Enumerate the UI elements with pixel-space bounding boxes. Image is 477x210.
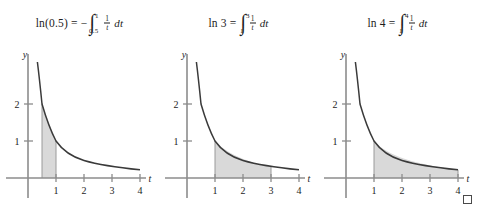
integral-lower-limit: 1 [399,27,403,35]
integrand-fraction: 1 t [409,14,415,31]
formula-equals: = [230,17,237,29]
y-axis-label: y [181,49,187,60]
end-of-proof-square-icon [463,195,472,204]
x-tick-label-2: 2 [400,185,405,196]
differential: dt [419,17,428,29]
y-tick-label-1: 1 [15,136,20,147]
integral-lower-limit: 0.5 [89,27,98,35]
panel-3-plot: y t 1 2 3 4 1 2 [318,46,477,206]
panel-3-svg: y t 1 2 3 4 1 2 [318,46,477,206]
y-tick-label-2: 2 [174,99,179,110]
x-tick-label-4: 4 [456,185,461,196]
fraction-denominator: t [410,23,414,31]
x-tick-label-3: 3 [269,185,274,196]
fraction-denominator: t [105,23,109,31]
panel-ln-4: ln 4 = ∫ 4 1 1 t dt [318,0,477,210]
integral-lower-limit: 1 [240,27,244,35]
x-tick-label-2: 2 [82,185,87,196]
x-axis-label: t [467,173,470,184]
x-tick-label-1: 1 [54,185,59,196]
formula-ln-3: ln 3 = ∫ 3 1 1 t dt [208,12,268,35]
formula-negative-sign: − [81,17,88,29]
panel-1-svg: y t 1 2 3 4 1 2 [0,46,159,206]
panel-1-caption: ln(0.5) = − ∫ 1 0.5 1 t dt [0,0,159,46]
fraction-denominator: t [251,23,255,31]
differential: dt [114,17,123,29]
x-tick-label-4: 4 [297,185,302,196]
y-tick-label-2: 2 [15,99,20,110]
formula-lhs: ln(0.5) [36,17,68,29]
formula-lhs: ln 4 [367,17,385,29]
panel-ln-3: ln 3 = ∫ 3 1 1 t dt [159,0,318,210]
curve-one-over-t [355,62,458,170]
integral-upper-limit: 1 [95,12,104,20]
x-tick-label-4: 4 [138,185,143,196]
integral-block: ∫ 4 1 [399,12,405,35]
x-axis-label: t [308,173,311,184]
y-axis-label: y [22,49,28,60]
integrand-fraction: 1 t [250,14,256,31]
panel-2-svg: y t 1 2 3 4 1 2 [159,46,318,206]
formula-ln-4: ln 4 = ∫ 4 1 1 t dt [367,12,427,35]
shaded-region [215,141,271,178]
formula-equals: = [389,17,396,29]
formula-lhs: ln 3 [208,17,226,29]
fraction-numerator: 1 [409,14,415,22]
x-tick-label-3: 3 [110,185,115,196]
panel-2-caption: ln 3 = ∫ 3 1 1 t dt [159,0,318,46]
y-tick-label-1: 1 [174,136,179,147]
shaded-region [374,141,458,178]
y-tick-label-1: 1 [333,136,338,147]
integrand-fraction: 1 t [104,14,110,31]
logarithm-integral-figure: ln(0.5) = − ∫ 1 0.5 1 t dt [0,0,477,210]
fraction-numerator: 1 [250,14,256,22]
panel-2-plot: y t 1 2 3 4 1 2 [159,46,318,206]
x-tick-label-1: 1 [372,185,377,196]
panel-1-plot: y t 1 2 3 4 1 2 [0,46,159,206]
shaded-region [42,104,56,178]
curve-one-over-t [196,62,299,170]
x-tick-label-2: 2 [241,185,246,196]
y-axis-label: y [340,49,346,60]
x-tick-label-1: 1 [213,185,218,196]
formula-equals: = [71,17,78,29]
y-tick-label-2: 2 [333,99,338,110]
integral-block: ∫ 1 0.5 [89,12,101,35]
x-tick-label-3: 3 [428,185,433,196]
panel-ln-half: ln(0.5) = − ∫ 1 0.5 1 t dt [0,0,159,210]
panel-3-caption: ln 4 = ∫ 4 1 1 t dt [318,0,477,46]
differential: dt [260,17,269,29]
fraction-numerator: 1 [104,14,110,22]
x-axis-label: t [149,173,152,184]
formula-ln-half: ln(0.5) = − ∫ 1 0.5 1 t dt [36,12,124,35]
integral-block: ∫ 3 1 [240,12,246,35]
